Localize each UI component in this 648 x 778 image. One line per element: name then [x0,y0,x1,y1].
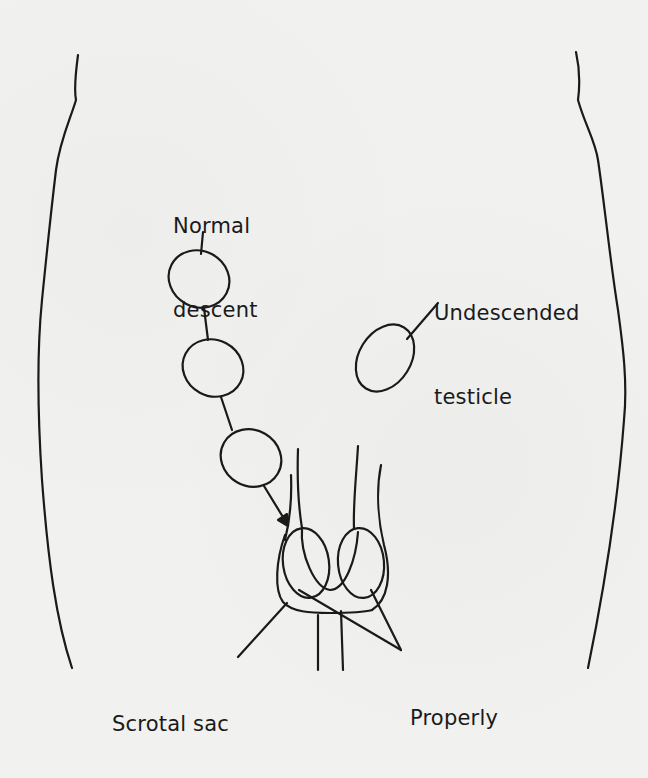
scrotal-sac-leader-line [238,603,287,657]
label-line: Properly [410,704,521,732]
label-scrotal-sac: Scrotal sac [112,654,229,766]
descent-path-line-2 [221,397,232,430]
body-outline-right [576,52,625,668]
spermatic-cord-left [298,449,302,528]
body-outline-left [38,55,78,668]
label-line: testicle [434,383,579,411]
label-line: descent [173,296,258,324]
undescended-ellipse [344,314,426,403]
label-undescended-testicle: Undescended testicle [434,243,579,439]
descent-ellipse-3 [210,418,292,497]
label-line: Normal [173,212,258,240]
testis-right [335,526,387,600]
label-properly-positioned-testes: Properly positioned testes [410,648,521,778]
spermatic-cord-mid [354,446,358,528]
label-line: Undescended [434,299,579,327]
label-normal-descent: Normal descent [173,156,258,352]
arrowhead-icon [278,514,288,526]
label-line: Scrotal sac [112,710,229,738]
lower-line-right [341,611,343,670]
